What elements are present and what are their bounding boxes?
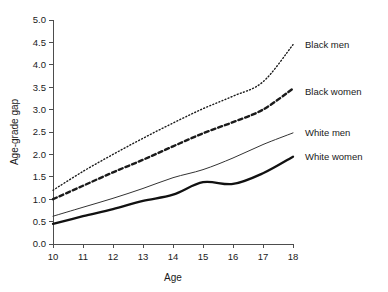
y-tick-label: 5.0 (33, 14, 46, 25)
y-axis-title: Age-grade gap (9, 98, 20, 165)
legend-label-white-women: White women (305, 151, 363, 162)
legend-label-black-women: Black women (305, 86, 362, 97)
y-tick-label: 3.5 (33, 82, 46, 93)
x-tick-label: 18 (288, 251, 299, 262)
x-tick-label: 12 (108, 251, 119, 262)
chart-figure: 0.00.51.01.52.02.53.03.54.04.55.0 101112… (0, 0, 388, 292)
series-line-white-women (53, 157, 293, 224)
series-line-black-men (53, 45, 293, 191)
y-tick-label: 0.0 (33, 238, 46, 249)
chart-canvas: 0.00.51.01.52.02.53.03.54.04.55.0 101112… (0, 0, 388, 292)
y-tick-label: 0.5 (33, 216, 46, 227)
series-lines (53, 45, 293, 224)
y-tick-label: 1.5 (33, 171, 46, 182)
x-axis-title: Age (164, 272, 182, 283)
y-axis: 0.00.51.01.52.02.53.03.54.04.55.0 (33, 14, 53, 249)
x-tick-label: 13 (138, 251, 149, 262)
y-tick-label: 4.5 (33, 37, 46, 48)
y-tick-label: 3.0 (33, 104, 46, 115)
x-tick-label: 11 (78, 251, 88, 262)
y-tick-label: 4.0 (33, 59, 46, 70)
x-tick-label: 10 (48, 251, 59, 262)
y-tick-label: 1.0 (33, 194, 46, 205)
series-line-black-women (53, 89, 293, 200)
legend: Black menBlack womenWhite menWhite women (305, 39, 363, 162)
x-tick-label: 15 (198, 251, 209, 262)
x-tick-label: 16 (228, 251, 239, 262)
legend-label-black-men: Black men (305, 39, 349, 50)
x-axis: 101112131415161718 (48, 244, 299, 262)
legend-label-white-men: White men (305, 127, 350, 138)
x-tick-label: 14 (168, 251, 179, 262)
x-tick-label: 17 (258, 251, 269, 262)
y-tick-label: 2.0 (33, 149, 46, 160)
y-tick-label: 2.5 (33, 126, 46, 137)
